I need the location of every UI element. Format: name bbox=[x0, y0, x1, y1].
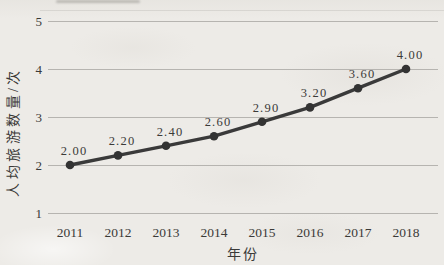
x-tick-label: 2017 bbox=[345, 225, 372, 240]
data-point-marker bbox=[114, 151, 123, 160]
data-point-label: 2.60 bbox=[205, 115, 232, 129]
data-point-label: 2.00 bbox=[61, 144, 88, 158]
data-point-label: 2.40 bbox=[157, 125, 184, 139]
line-chart: 123452.002.202.402.602.903.203.604.00201… bbox=[0, 0, 444, 265]
data-point-label: 3.20 bbox=[301, 86, 328, 100]
data-point-marker bbox=[354, 84, 363, 93]
x-tick-label: 2011 bbox=[57, 225, 84, 240]
data-point-label: 2.20 bbox=[109, 134, 136, 148]
x-tick-label: 2013 bbox=[153, 225, 180, 240]
y-tick-label: 5 bbox=[36, 14, 43, 29]
data-point-marker bbox=[402, 65, 411, 74]
data-point-marker bbox=[66, 161, 75, 170]
x-tick-label: 2014 bbox=[201, 225, 228, 240]
data-point-label: 2.90 bbox=[253, 101, 280, 115]
y-tick-label: 1 bbox=[36, 206, 43, 221]
data-point-marker bbox=[306, 103, 315, 112]
x-tick-label: 2012 bbox=[105, 225, 132, 240]
x-tick-label: 2018 bbox=[393, 225, 420, 240]
x-tick-label: 2016 bbox=[297, 225, 324, 240]
data-point-marker bbox=[162, 142, 171, 151]
data-point-marker bbox=[258, 118, 267, 127]
data-point-label: 4.00 bbox=[397, 48, 424, 62]
x-axis-title: 年份 bbox=[48, 243, 438, 263]
x-tick-label: 2015 bbox=[249, 225, 276, 240]
data-point-label: 3.60 bbox=[349, 67, 376, 81]
y-tick-label: 4 bbox=[36, 62, 43, 77]
scanned-chart-page: 123452.002.202.402.602.903.203.604.00201… bbox=[0, 0, 444, 265]
y-axis-title: 人均旅游数量/次 bbox=[5, 32, 23, 232]
y-tick-label: 3 bbox=[36, 110, 43, 125]
y-tick-label: 2 bbox=[36, 158, 43, 173]
data-point-marker bbox=[210, 132, 219, 141]
